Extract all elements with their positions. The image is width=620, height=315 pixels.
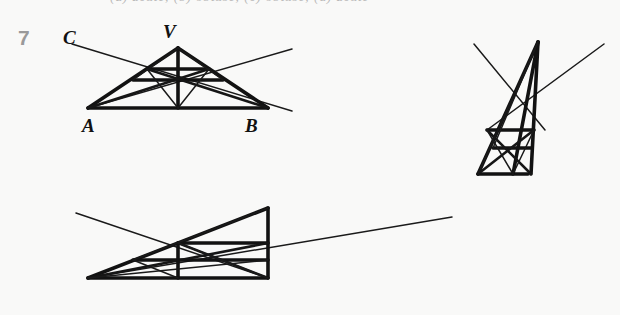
cevian-A-to-upper-right [88,69,209,108]
figure-7-label-C: C [63,28,76,47]
figure-7-label-B: B [245,116,258,135]
cevian-B-to-upper-left [147,69,268,108]
figure-7-number: 7 [18,27,30,48]
figure-7-drawing [0,0,310,160]
figure-9-drawing [0,160,470,315]
connector-A-to-V-inner [478,42,538,174]
worksheet-page: (a) acute; (b) obtuse; (c) obtuse; (d) a… [0,0,620,315]
ray-to-far-right [88,217,452,278]
figure-7-label-A: A [82,116,95,135]
figure-9: 9 C V A B [0,160,470,315]
figure-7-label-V: V [163,22,176,41]
figure-7: 7 C V A B [0,0,310,160]
